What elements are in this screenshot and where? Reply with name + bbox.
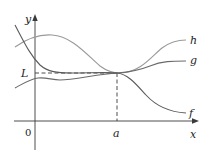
- squeeze-theorem-diagram: y x 0 L a h g f: [0, 0, 210, 153]
- curve-g-label: g: [190, 54, 197, 67]
- x-axis-label: x: [190, 128, 197, 141]
- limit-label: L: [20, 67, 28, 80]
- origin-label: 0: [25, 127, 31, 138]
- curve-h-label: h: [190, 34, 197, 47]
- point-a-label: a: [113, 127, 120, 140]
- y-axis-arrow: [32, 14, 37, 21]
- curve-f: [15, 25, 186, 113]
- y-axis-label: y: [24, 13, 32, 26]
- curve-f-label: f: [188, 107, 195, 120]
- curve-h: [15, 35, 186, 73]
